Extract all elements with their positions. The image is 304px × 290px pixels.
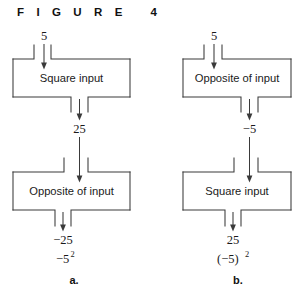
- panel-b-step1-output-value: −5: [243, 122, 256, 136]
- panel-a-step2-output-value: −25: [53, 233, 73, 247]
- panel-b-letter: b.: [233, 274, 243, 286]
- panel-b-output-arrow: [230, 212, 236, 232]
- panel-a-step1-output-value: 25: [73, 122, 86, 136]
- panel-b: 5 Opposite of input: [183, 29, 291, 286]
- panel-a-expression-exponent: 2: [71, 250, 75, 259]
- panel-a-mid-arrow: [77, 99, 83, 121]
- figure-root: F I G U R E 4 5 Square input: [0, 0, 304, 290]
- panel-b-step2-label: Square input: [205, 185, 269, 197]
- panel-a-letter: a.: [69, 274, 78, 286]
- panel-a: 5 Square input: [13, 29, 130, 286]
- panel-b-expression-base: (−5): [217, 252, 239, 266]
- panel-a-step2-label: Opposite of input: [29, 185, 114, 197]
- panel-b-input-value: 5: [211, 29, 217, 43]
- panel-b-step2-box: Square input: [183, 158, 291, 226]
- panel-a-expression-base: −5: [56, 252, 69, 266]
- panel-b-input-arrow: [211, 44, 217, 70]
- panel-b-step2-output-value: 25: [227, 233, 240, 247]
- panel-b-connector-arrow: [247, 137, 253, 183]
- panel-a-input-arrow: [41, 44, 47, 70]
- panel-a-connector-arrow: [77, 137, 83, 183]
- panel-a-step1-box: Square input: [13, 45, 130, 112]
- panel-a-expression: −5 2: [56, 250, 75, 266]
- panel-b-expression: (−5) 2: [217, 250, 249, 266]
- panel-b-mid-arrow: [247, 99, 253, 121]
- panel-a-output-arrow: [60, 212, 66, 232]
- flowchart-diagram: 5 Square input: [0, 0, 304, 290]
- panel-a-step1-label: Square input: [40, 72, 104, 84]
- panel-a-input-value: 5: [41, 29, 47, 43]
- panel-b-step1-box: Opposite of input: [183, 45, 291, 112]
- panel-b-expression-exponent: 2: [245, 250, 249, 259]
- panel-b-step1-label: Opposite of input: [195, 72, 280, 84]
- panel-a-step2-box: Opposite of input: [13, 158, 130, 226]
